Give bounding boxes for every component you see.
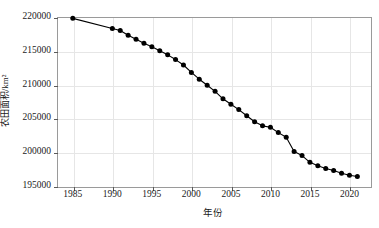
y-axis-tick-label: 210000 [23,80,52,90]
data-point [228,102,233,107]
y-axis-tick-labels: 195000200000205000210000215000220000 [0,17,53,186]
data-point [118,28,123,33]
x-axis-title: 年份 [203,205,223,219]
data-point [244,113,249,118]
x-axis-tick-label: 2000 [182,190,201,200]
data-point [197,77,202,82]
data-point [236,107,241,112]
x-axis-tick-label: 1990 [103,190,122,200]
x-axis-tick-label: 2005 [221,190,240,200]
data-point [252,119,257,124]
y-axis-tick-label: 215000 [23,46,52,56]
x-axis-tick-label: 2010 [261,190,280,200]
data-point [165,52,170,57]
data-point [220,96,225,101]
data-point [300,153,305,158]
data-point [284,135,289,140]
data-point [205,83,210,88]
data-point [157,48,162,53]
x-axis-tick-label: 2020 [340,190,359,200]
x-axis-tick-labels: 19851990199520002005201020152020 [57,190,370,204]
x-axis-tick-label: 2015 [300,190,319,200]
series-line-farmland-area [73,18,358,176]
data-point [189,70,194,75]
data-point [268,125,273,130]
y-axis-tick-label: 200000 [23,147,52,157]
x-axis-tick-label: 1995 [142,190,161,200]
data-point [276,130,281,135]
data-point [149,44,154,49]
data-point [110,26,115,31]
data-point [292,149,297,154]
data-series-layer [57,17,370,186]
y-axis-tick [54,187,58,188]
data-point [347,173,352,178]
data-point [260,123,265,128]
y-axis-tick-label: 195000 [23,181,52,191]
data-point [213,89,218,94]
data-point [323,166,328,171]
data-point [315,163,320,168]
data-point [331,168,336,173]
y-axis-tick-label: 205000 [23,114,52,124]
data-point [181,63,186,68]
series-markers-farmland-area [70,16,360,179]
data-point [339,171,344,176]
x-axis-tick-label: 1985 [63,190,82,200]
data-point [134,37,139,42]
data-point [173,57,178,62]
data-point [70,16,75,21]
data-point [307,160,312,165]
farmland-area-line-chart: 农田面积/km² 1950002000002050002100002150002… [0,0,379,228]
data-point [355,174,360,179]
data-point [126,33,131,38]
y-axis-tick-label: 220000 [23,12,52,22]
data-point [141,41,146,46]
